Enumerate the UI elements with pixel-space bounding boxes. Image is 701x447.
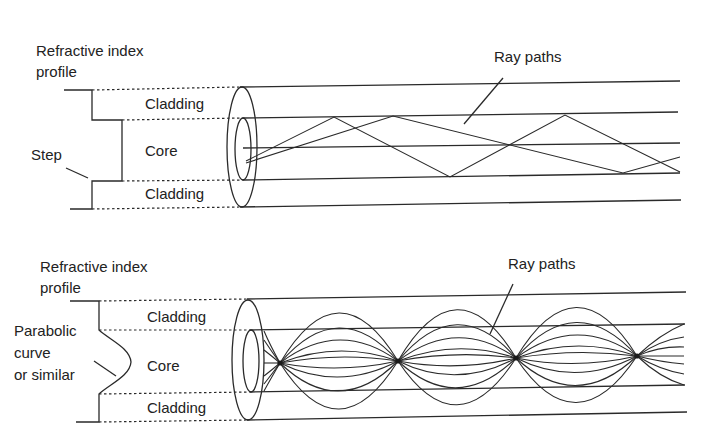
graded-core-end-ellipse — [243, 330, 259, 392]
step-shape-label: Step — [31, 146, 62, 163]
step-outer-bottom-line — [240, 200, 681, 207]
dash-outer-bottom — [92, 207, 240, 209]
graded-outer-bottom-line — [247, 412, 687, 420]
step-outer-top-line — [240, 81, 680, 87]
graded-shape-label-line1: Parabolic — [14, 322, 77, 339]
step-cladding-top-label: Cladding — [145, 95, 204, 112]
graded-cladding-bottom-label: Cladding — [147, 399, 206, 416]
graded-profile-title-line2: profile — [40, 279, 81, 296]
dash-outer-top — [99, 299, 247, 301]
step-ray-label: Ray paths — [494, 48, 562, 65]
step-axis-line — [243, 143, 680, 148]
graded-index-diagram: Refractive index profile Cladding Core C… — [14, 255, 687, 422]
focal-point-2 — [395, 358, 400, 363]
graded-profile-title-line1: Refractive index — [40, 258, 148, 275]
dash-outer-bottom — [99, 420, 247, 422]
step-profile-curve — [64, 90, 122, 209]
graded-shape-label-line2: curve — [14, 344, 51, 361]
step-core-end-ellipse — [235, 118, 251, 180]
step-core-top-line — [243, 112, 678, 118]
graded-shape-label-line3: or similar — [14, 366, 75, 383]
graded-core-top-line — [250, 324, 685, 330]
dash-outer-top — [92, 87, 240, 90]
step-core-label: Core — [145, 142, 178, 159]
step-profile-title-line1: Refractive index — [36, 42, 144, 59]
dash-core-bottom — [99, 392, 250, 394]
graded-label-pointer — [94, 361, 116, 376]
focal-point-4 — [634, 353, 639, 358]
graded-cladding-top-label: Cladding — [147, 308, 206, 325]
step-ray-2 — [246, 116, 680, 173]
step-index-diagram: Refractive index profile Cladding Core C… — [31, 42, 681, 209]
graded-ray-bundle — [264, 307, 684, 409]
step-profile-title-line2: profile — [36, 63, 77, 80]
fibre-diagram: Refractive index profile Cladding Core C… — [0, 0, 701, 447]
dash-core-top — [122, 118, 243, 120]
step-ray-pointer — [464, 78, 503, 124]
graded-profile-curve — [70, 301, 131, 422]
graded-core-label: Core — [147, 357, 180, 374]
graded-outer-top-line — [247, 292, 686, 299]
step-cladding-bottom-label: Cladding — [145, 185, 204, 202]
dash-core-bottom — [122, 180, 243, 181]
step-label-pointer — [66, 168, 88, 178]
step-core-bottom-line — [243, 173, 680, 180]
graded-ray-label: Ray paths — [508, 255, 576, 272]
focal-point-3 — [513, 355, 518, 360]
focal-point-1 — [277, 360, 282, 365]
step-cladding-end-ellipse — [227, 87, 257, 207]
